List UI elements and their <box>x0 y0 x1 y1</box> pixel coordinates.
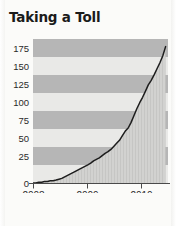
y-tick-label: 75 <box>18 115 29 126</box>
chart-figure: Taking a Toll <box>0 0 176 226</box>
y-tick-label: 125 <box>13 79 29 90</box>
x-tick-label: 2009 <box>76 190 99 193</box>
y-tick-label: 25 <box>18 151 29 162</box>
y-tick-label: 175 <box>13 43 29 54</box>
plot-area: 175 150 125 100 75 50 25 0 2008 2009 <box>0 33 176 193</box>
x-tick-label: 2010 <box>130 190 153 193</box>
y-tick-label: 150 <box>13 61 29 72</box>
chart-svg: 175 150 125 100 75 50 25 0 2008 2009 <box>0 33 176 193</box>
y-axis-labels: 175 150 125 100 75 50 25 0 <box>13 43 29 189</box>
x-axis-labels: 2008 2009 2010 <box>22 190 153 193</box>
x-axis-ticks <box>34 184 142 189</box>
y-tick-label: 100 <box>13 97 29 108</box>
y-tick-label: 50 <box>18 133 29 144</box>
x-tick-label: 2008 <box>22 190 45 193</box>
chart-title: Taking a Toll <box>9 9 100 25</box>
y-tick-label: 0 <box>24 178 29 189</box>
